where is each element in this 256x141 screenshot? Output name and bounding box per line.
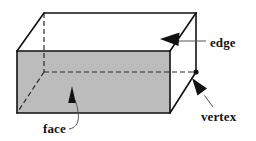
prism-diagram-canvas: face edge vertex — [0, 0, 256, 141]
front-face — [17, 51, 170, 113]
edge-label: edge — [210, 35, 236, 50]
vertex-dot-marker — [193, 69, 198, 74]
vertex-label: vertex — [201, 109, 237, 124]
face-label: face — [43, 121, 66, 136]
geometry-figure: face edge vertex — [0, 0, 256, 141]
